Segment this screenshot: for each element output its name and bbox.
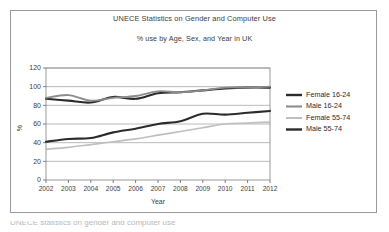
y-tick-label: 20 xyxy=(33,158,41,165)
y-axis-label: % xyxy=(16,125,23,131)
x-tick-label: 2009 xyxy=(195,185,210,192)
figure-caption: UNECE statistics on gender and computer … xyxy=(10,221,310,232)
x-tick-label: 2002 xyxy=(39,185,54,192)
chart-legend: Female 16-24Male 16-24Female 55-74Male 5… xyxy=(286,90,350,134)
x-tick-label: 2011 xyxy=(241,185,256,192)
y-tick-label: 60 xyxy=(33,120,41,127)
chart-plot-area: 020406080100120 200220032004200520062007… xyxy=(0,0,389,232)
legend-label-0: Female 16-24 xyxy=(306,90,350,99)
y-tick-label: 40 xyxy=(33,139,41,146)
x-axis-label: Year xyxy=(151,198,166,205)
x-tick-label: 2005 xyxy=(106,185,121,192)
data-series xyxy=(46,87,270,150)
legend-label-1: Male 16-24 xyxy=(306,101,342,110)
series-line-2 xyxy=(46,122,270,149)
y-tick-label: 80 xyxy=(33,102,41,109)
y-tick-label: 120 xyxy=(29,64,41,71)
x-tick-label: 2006 xyxy=(128,185,143,192)
legend-label-3: Male 55-74 xyxy=(306,124,342,133)
x-tick-label: 2004 xyxy=(83,185,98,192)
x-tick-label: 2007 xyxy=(151,185,166,192)
x-axis-ticks: 2002200320042005200620072008200920102011… xyxy=(39,180,278,192)
line-chart-svg: 020406080100120 200220032004200520062007… xyxy=(0,0,389,232)
figure-caption-text: UNECE statistics on gender and computer … xyxy=(10,221,175,227)
y-axis-ticks: 020406080100120 xyxy=(29,64,46,183)
y-tick-label: 100 xyxy=(29,83,41,90)
legend-label-2: Female 55-74 xyxy=(306,113,350,122)
x-tick-label: 2003 xyxy=(61,185,76,192)
series-line-3 xyxy=(46,111,270,142)
x-tick-label: 2012 xyxy=(263,185,278,192)
y-tick-label: 0 xyxy=(37,176,41,183)
series-line-0 xyxy=(46,88,270,103)
x-tick-label: 2010 xyxy=(218,185,233,192)
x-tick-label: 2008 xyxy=(173,185,188,192)
